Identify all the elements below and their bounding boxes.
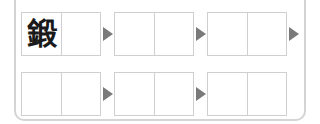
practice-cell[interactable] [115, 73, 154, 115]
practice-cell[interactable] [154, 73, 193, 115]
practice-box [114, 72, 194, 116]
practice-cell[interactable] [247, 13, 286, 55]
practice-box [207, 12, 287, 56]
kanji-sample: 鍛 [27, 19, 57, 49]
arrow-right-icon [287, 12, 300, 56]
practice-row-1: 鍛 [21, 12, 300, 56]
arrow-right-icon [101, 72, 114, 116]
practice-cell[interactable] [61, 73, 100, 115]
practice-cell[interactable] [61, 13, 100, 55]
practice-cell[interactable] [208, 13, 247, 55]
practice-cell[interactable] [247, 73, 286, 115]
practice-box [207, 72, 287, 116]
arrow-right-icon [101, 12, 114, 56]
arrow-right-icon [194, 72, 207, 116]
practice-cell[interactable] [208, 73, 247, 115]
practice-box [114, 12, 194, 56]
practice-box [21, 72, 101, 116]
practice-cell[interactable] [154, 13, 193, 55]
practice-cell-sample: 鍛 [22, 13, 61, 55]
practice-cell[interactable] [22, 73, 61, 115]
arrow-right-icon [194, 12, 207, 56]
practice-cell[interactable] [115, 13, 154, 55]
practice-row-2 [21, 72, 287, 116]
practice-box: 鍛 [21, 12, 101, 56]
